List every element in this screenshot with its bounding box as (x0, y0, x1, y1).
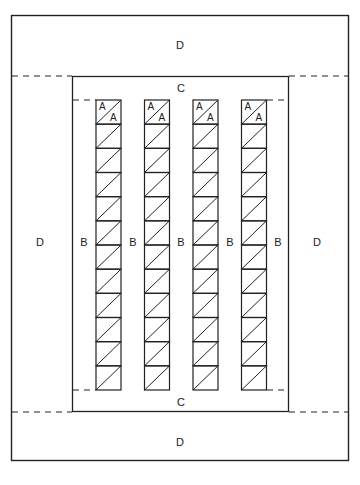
diagonal-seam (242, 366, 267, 390)
label-block-a-top: A (196, 101, 203, 112)
diagonal-seam (193, 342, 218, 366)
diagonal-seam (96, 221, 121, 245)
label-block-a-bottom: A (207, 112, 214, 123)
diagonal-seam (242, 148, 267, 172)
diagonal-seam (145, 124, 170, 148)
label-block-a-bottom: A (110, 112, 117, 123)
diagonal-seam (145, 197, 170, 221)
label-left-border: D (36, 236, 44, 248)
diagonal-seam (242, 342, 267, 366)
diagonal-seam (193, 148, 218, 172)
diagonal-seam (242, 293, 267, 317)
diagonal-seam (145, 342, 170, 366)
label-top-inner-border: C (177, 82, 185, 94)
diagonal-seam (242, 269, 267, 293)
block-column: AA (145, 100, 170, 390)
diagonal-seam (193, 197, 218, 221)
label-sashing: B (80, 236, 87, 248)
label-sashing: B (274, 236, 281, 248)
block-column: AA (242, 100, 267, 390)
diagonal-seam (145, 293, 170, 317)
diagonal-seam (96, 124, 121, 148)
diagonal-seam (96, 293, 121, 317)
diagonal-seam (242, 318, 267, 342)
label-block-a-top: A (148, 101, 155, 112)
label-top-border: D (176, 39, 184, 51)
diagonal-seam (96, 148, 121, 172)
label-sashing: B (177, 236, 184, 248)
diagonal-seam (242, 245, 267, 269)
diagonal-seam (96, 318, 121, 342)
diagonal-seam (145, 318, 170, 342)
label-bottom-inner-border: C (177, 396, 185, 408)
label-right-border: D (313, 236, 321, 248)
diagonal-seam (145, 245, 170, 269)
diagonal-seam (193, 318, 218, 342)
diagonal-seam (145, 148, 170, 172)
diagonal-seam (96, 173, 121, 197)
diagonal-seam (193, 269, 218, 293)
diagonal-seam (96, 366, 121, 390)
label-sashing: B (129, 236, 136, 248)
label-sashing: B (226, 236, 233, 248)
diagonal-seam (193, 366, 218, 390)
diagonal-seam (242, 221, 267, 245)
diagonal-seam (193, 173, 218, 197)
diagonal-seam (193, 293, 218, 317)
diagonal-seam (193, 221, 218, 245)
label-block-a-bottom: A (256, 112, 263, 123)
diagonal-seam (145, 269, 170, 293)
diagonal-seam (96, 197, 121, 221)
diagonal-seam (145, 221, 170, 245)
diagonal-seam (145, 173, 170, 197)
label-bottom-border: D (176, 436, 184, 448)
label-block-a-top: A (99, 101, 106, 112)
quilt-diagram: AAAAAAAA D D D D C C B B B B B (0, 0, 360, 485)
block-column: AA (193, 100, 218, 390)
diagonal-seam (145, 366, 170, 390)
diagonal-seam (193, 245, 218, 269)
diagonal-seam (242, 197, 267, 221)
diagonal-seam (193, 124, 218, 148)
block-column: AA (96, 100, 121, 390)
diagonal-seam (242, 173, 267, 197)
diagonal-seam (96, 342, 121, 366)
label-block-a-bottom: A (159, 112, 166, 123)
diagonal-seam (242, 124, 267, 148)
label-block-a-top: A (245, 101, 252, 112)
diagonal-seam (96, 269, 121, 293)
diagonal-seam (96, 245, 121, 269)
